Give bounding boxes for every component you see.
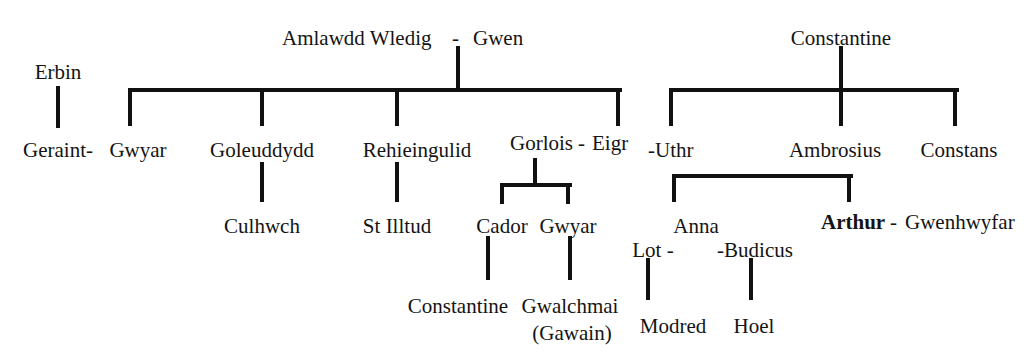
- connector-lot-to-modred: [646, 258, 650, 300]
- connector-sibling-drop-goleuddydd: [260, 88, 264, 126]
- person-cador: Cador: [476, 216, 527, 237]
- person-eigr: Eigr: [592, 133, 628, 154]
- person-gwenhwyfar: Gwenhwyfar: [905, 212, 1015, 233]
- person-gwen: Gwen: [473, 28, 523, 49]
- person-modred: Modred: [640, 316, 707, 337]
- connector-goleuddydd-to-culhwch: [260, 162, 264, 202]
- person-anna: Anna: [673, 216, 719, 237]
- person-dash1: -: [452, 28, 459, 49]
- connector-gorlois-eigr-children-bar: [502, 183, 572, 187]
- person-lot: Lot -: [632, 240, 673, 261]
- person-constantine2: Constantine: [408, 296, 508, 317]
- connector-uthr-eigr-children-bar: [674, 174, 853, 178]
- person-hoel: Hoel: [734, 316, 775, 337]
- connector-child-drop-arthur: [847, 174, 851, 202]
- connector-constantine-stem: [839, 46, 843, 88]
- person-gawain: (Gawain): [532, 323, 611, 344]
- connector-sibling-drop-ambrosius: [839, 88, 843, 126]
- person-rehieingulid: Rehieingulid: [363, 140, 472, 161]
- person-constantine1: Constantine: [791, 28, 891, 49]
- connector-sibling-drop-gorlois: [616, 88, 620, 126]
- person-constans: Constans: [920, 140, 997, 161]
- person-geraint: Geraint-: [23, 140, 93, 161]
- person-budicus: -Budicus: [717, 240, 793, 261]
- connector-erbin-to-geraint: [56, 86, 60, 128]
- connector-child-drop-anna: [672, 174, 676, 202]
- person-ambrosius: Ambrosius: [789, 140, 881, 161]
- connector-sibling-drop-constans: [953, 88, 957, 126]
- person-goleuddydd: Goleuddydd: [210, 140, 314, 161]
- person-dash2: -: [578, 133, 585, 154]
- connector-gwyar2-to-gwalchmai: [568, 236, 572, 280]
- connector-amlawdd-gwen-stem: [456, 46, 460, 88]
- connector-sibling-drop-uthr: [669, 88, 673, 126]
- person-gwalchmai: Gwalchmai: [522, 296, 619, 317]
- connector-sibling-drop-rehieingulid: [395, 88, 399, 126]
- person-uthr: -Uthr: [648, 140, 694, 161]
- connector-rehieingulid-to-stilltud: [395, 162, 399, 202]
- person-arthur: Arthur: [821, 212, 885, 233]
- connector-gorlois-eigr-stem: [533, 158, 537, 184]
- connector-budicus-to-hoel: [749, 258, 753, 300]
- connector-sibling-drop-gwyar: [128, 88, 132, 126]
- person-gorlois: Gorlois: [510, 133, 573, 154]
- connector-constantine-sibling-bar: [669, 88, 959, 92]
- person-gwyar2: Gwyar: [539, 216, 596, 237]
- person-culhwch: Culhwch: [224, 216, 300, 237]
- person-dash3: -: [890, 212, 897, 233]
- person-gwyar1: Gwyar: [109, 140, 166, 161]
- person-amlawdd: Amlawdd Wledig: [282, 28, 432, 49]
- person-erbin: Erbin: [35, 62, 82, 83]
- connector-cador-to-constantine2: [486, 236, 490, 280]
- person-stilltud: St Illtud: [363, 216, 431, 237]
- connector-amlawdd-gwen-sibling-bar: [130, 88, 622, 92]
- genealogy-chart: ErbinAmlawdd Wledig-GwenConstantineGerai…: [0, 0, 1036, 358]
